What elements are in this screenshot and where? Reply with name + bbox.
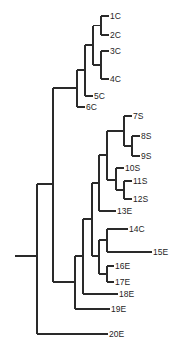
leaf-label: 13E [117,206,132,216]
leaf-label: 5C [94,91,105,101]
leaf-label: 20E [109,329,124,339]
leaf-label: 8S [141,131,152,141]
leaf-label: 19E [111,304,126,314]
leaf-label: 16E [115,261,130,271]
leaf-label: 15E [153,247,168,257]
leaf-label: 2C [110,30,121,40]
leaf-label: 18E [119,289,134,299]
leaf-label: 1C [110,11,121,21]
leaf-label: 14C [129,224,145,234]
leaf-labels: 1C 2C 3C 4C 5C 6C 7S 8S 9S 10S 11S 12S 1… [86,11,168,339]
leaf-label: 9S [141,151,152,161]
leaf-label: 4C [110,74,121,84]
leaf-label: 12S [133,194,148,204]
dendrogram: 1C 2C 3C 4C 5C 6C 7S 8S 9S 10S 11S 12S 1… [0,0,181,349]
leaf-label: 17E [115,277,130,287]
leaf-label: 7S [133,111,144,121]
leaf-label: 10S [125,163,140,173]
leaf-label: 6C [86,102,97,112]
leaf-label: 3C [110,46,121,56]
tree-branches [15,16,152,334]
leaf-label: 11S [133,176,148,186]
